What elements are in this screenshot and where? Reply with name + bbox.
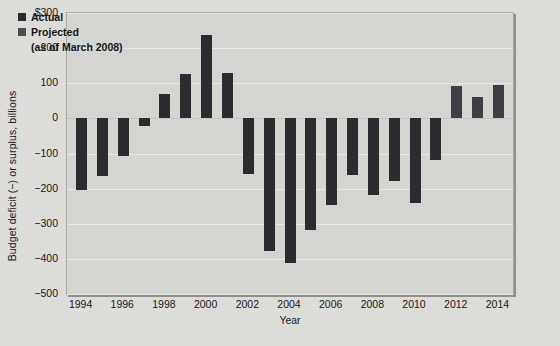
y-tick-label: −200: [34, 182, 58, 194]
bar: [305, 118, 316, 230]
legend-label-actual: Actual: [31, 10, 63, 24]
bar: [264, 118, 275, 251]
x-tick-label: 2002: [236, 298, 259, 310]
bar: [430, 118, 441, 159]
gridline: [67, 294, 513, 295]
x-tick-label: 2004: [277, 298, 300, 310]
bar: [243, 118, 254, 173]
legend-item-projected: Projected: [18, 25, 123, 39]
gridline: [67, 83, 513, 84]
bar: [139, 118, 150, 126]
x-tick-label: 1996: [111, 298, 134, 310]
bar: [389, 118, 400, 181]
bar: [368, 118, 379, 195]
bar: [326, 118, 337, 205]
y-tick-label: 0: [52, 111, 58, 123]
bar: [159, 94, 170, 118]
plot-area: [66, 12, 514, 295]
bar: [201, 35, 212, 118]
x-tick-label: 2012: [444, 298, 467, 310]
bar: [472, 97, 483, 119]
bar: [118, 118, 129, 156]
legend-item-actual: Actual: [18, 10, 123, 24]
x-tick-label: 2008: [361, 298, 384, 310]
bar: [97, 118, 108, 176]
y-tick-label: −100: [34, 147, 58, 159]
y-tick-label: −400: [34, 252, 58, 264]
bar: [76, 118, 87, 189]
y-tick-label: −300: [34, 217, 58, 229]
x-tick-label: 2014: [486, 298, 509, 310]
x-tick-label: 1994: [69, 298, 92, 310]
x-axis-tick-labels: 1994199619982000200220042006200820102012…: [66, 298, 514, 314]
x-tick-label: 1998: [152, 298, 175, 310]
chart-legend: Actual Projected (as of March 2008): [18, 10, 123, 54]
x-tick-label: 2000: [194, 298, 217, 310]
x-tick-label: 2006: [319, 298, 342, 310]
bar: [347, 118, 358, 175]
legend-label-projected: Projected: [31, 25, 79, 39]
bar: [410, 118, 421, 203]
x-axis-title: Year: [66, 314, 514, 326]
legend-swatch-projected-icon: [18, 28, 26, 36]
y-axis-tick-labels: $3002001000−100−200−300−400−500: [0, 12, 62, 295]
budget-deficit-bar-chart: Budget deficit (−) or surplus, billions …: [0, 0, 560, 346]
y-tick-label: −500: [34, 287, 58, 299]
bar: [451, 86, 462, 118]
bar: [180, 74, 191, 118]
bar: [285, 118, 296, 263]
bar: [222, 73, 233, 118]
x-tick-label: 2010: [402, 298, 425, 310]
gridline: [67, 48, 513, 49]
gridline: [67, 13, 513, 14]
bar: [493, 85, 504, 119]
legend-swatch-actual-icon: [18, 13, 26, 21]
legend-label-projected-sub: (as of March 2008): [31, 40, 123, 54]
y-tick-label: 100: [40, 76, 58, 88]
